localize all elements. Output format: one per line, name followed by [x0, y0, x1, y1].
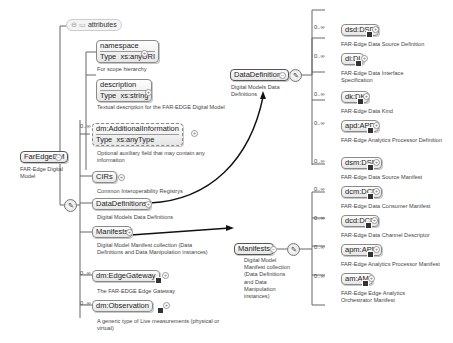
expand-plus-icon[interactable]: − — [279, 72, 286, 79]
element-cirs[interactable]: CIRs — [92, 171, 117, 183]
sequence-compositor-icon[interactable]: ✎ — [287, 243, 300, 256]
reference-arrow-icon — [357, 98, 364, 105]
reference-arrow-icon — [367, 164, 374, 171]
expand-plus-icon[interactable]: + — [141, 50, 148, 57]
element-name: CIRs — [96, 172, 113, 181]
element-doc: Digital Model Manifest collection (Data … — [97, 242, 217, 256]
occurrence-label: 0..∞ — [314, 24, 325, 30]
type-label: Type — [96, 135, 112, 144]
expand-plus-icon[interactable]: + — [162, 272, 169, 279]
expand-plus-icon[interactable]: + — [126, 229, 133, 236]
expand-plus-icon[interactable]: + — [363, 93, 370, 100]
element-doc: A generic type of Live measurements (phy… — [97, 318, 227, 332]
element-name: DataDefinitions — [96, 199, 147, 208]
sequence-compositor-icon[interactable]: ✎ — [64, 199, 77, 212]
element-doc: FAR-Edge Data Interface Specification — [341, 70, 406, 84]
expand-plus-icon[interactable]: + — [368, 275, 375, 282]
element-additional-information[interactable]: dm:AdditionalInformation Type xs:anyType — [92, 123, 183, 146]
expand-plus-icon[interactable]: + — [145, 201, 152, 208]
reference-arrow-icon — [367, 193, 374, 200]
element-data-definitions[interactable]: DataDefinitions — [92, 198, 151, 210]
expand-plus-icon[interactable]: − — [55, 154, 62, 161]
element-doc: FAR-Edge Edge Analytics Orchestrator Man… — [341, 290, 429, 304]
expand-plus-icon[interactable]: + — [372, 26, 379, 33]
expand-plus-icon[interactable]: + — [118, 174, 125, 181]
type-value: xs:anyType — [116, 135, 154, 144]
expand-plus-icon[interactable]: − — [270, 246, 277, 253]
occurrence-label: 0..∞ — [314, 215, 325, 221]
occurrence-label: 0..∞ — [314, 244, 325, 250]
manifests-node[interactable]: Manifests — [234, 243, 274, 255]
element-doc: Digital Models Data Definitions — [231, 84, 281, 98]
expand-plus-icon[interactable]: + — [373, 246, 380, 253]
element-doc: Optional auxiliary field that may contai… — [97, 150, 227, 164]
occurrence-label: 0..∞ — [80, 123, 91, 129]
attributes-group[interactable]: ⊖ ▭ attributes — [66, 19, 122, 31]
element-observation[interactable]: dm:Observation — [92, 300, 153, 312]
reference-arrow-icon — [355, 60, 362, 67]
occurrence-label: 0..∞ — [314, 53, 325, 59]
sequence-compositor-icon[interactable]: ✎ — [289, 69, 302, 82]
element-namespace[interactable]: namespace Type xs:anyURI — [96, 40, 159, 63]
expand-plus-icon[interactable]: + — [373, 188, 380, 195]
element-doc: Digital Model Manifest collection (Data … — [244, 257, 290, 300]
element-doc: The FAR-EDGE Edge Gateway — [97, 288, 175, 295]
element-name: dm:EdgeGateway — [96, 271, 156, 280]
occurrence-label: 0..∞ — [80, 270, 91, 276]
reference-arrow-icon — [367, 127, 374, 134]
expand-plus-icon[interactable]: + — [373, 159, 380, 166]
reference-arrow-icon — [155, 277, 162, 284]
element-name: Manifests — [96, 227, 128, 236]
expand-plus-icon[interactable]: + — [361, 55, 368, 62]
attributes-label: attributes — [88, 21, 117, 28]
reference-arrow-icon — [362, 280, 369, 287]
element-name: DataDefinitions — [234, 70, 285, 79]
occurrence-label: 0..∞ — [314, 91, 325, 97]
element-name: dm:Observation — [96, 301, 149, 310]
element-doc: Common Interoperability Registrys — [97, 188, 183, 195]
element-doc: FAR-Edge Data Source Definition — [341, 41, 424, 48]
reference-arrow-icon — [367, 251, 374, 258]
occurrence-label: 0..∞ — [314, 273, 325, 279]
reference-arrow-icon — [157, 307, 164, 314]
element-description[interactable]: description Type xs:string — [96, 79, 152, 102]
occurrence-label: 0..∞ — [314, 158, 325, 164]
type-label: Type — [100, 91, 116, 100]
expand-plus-icon[interactable]: + — [163, 302, 170, 309]
reference-arrow-icon — [365, 222, 372, 229]
expand-plus-icon[interactable]: + — [145, 89, 152, 96]
element-doc: FAR-Edge Data Source Manifest — [341, 174, 422, 181]
element-name: namespace — [100, 41, 155, 51]
element-doc: For scope hierarchy — [97, 66, 146, 73]
element-doc: FAR-Edge Data Kind — [341, 108, 393, 115]
expand-plus-icon[interactable]: + — [373, 122, 380, 129]
reference-arrow-icon — [366, 31, 373, 38]
element-name: dm:AdditionalInformation — [96, 124, 179, 134]
element-edge-gateway[interactable]: dm:EdgeGateway — [92, 270, 160, 282]
occurrence-label: 0..∞ — [80, 300, 91, 306]
element-doc: FAR-Edge Analytics Processor Manifest — [341, 261, 440, 268]
element-doc: FAR-Edge Analytics Processor Definition — [341, 137, 442, 144]
element-name: Manifests — [238, 244, 270, 253]
element-doc: Digital Models Data Definitions — [97, 214, 173, 221]
element-doc: FAR-Edge Data Consumer Manifest — [341, 203, 430, 210]
expand-plus-icon[interactable]: + — [371, 217, 378, 224]
occurrence-label: 0..∞ — [314, 186, 325, 192]
type-label: Type — [100, 52, 116, 61]
type-value: xs:anyURI — [120, 52, 155, 61]
element-doc: FAR-Edge Data Channel Descriptor — [341, 232, 430, 239]
element-doc: Textual description for the FAR-EDGE Dig… — [97, 104, 227, 111]
root-doc: FAR-Edge Digital Model — [20, 166, 68, 180]
occurrence-label: 0..∞ — [314, 120, 325, 126]
expand-plus-icon[interactable]: + — [191, 130, 198, 137]
element-name: description — [100, 80, 148, 90]
